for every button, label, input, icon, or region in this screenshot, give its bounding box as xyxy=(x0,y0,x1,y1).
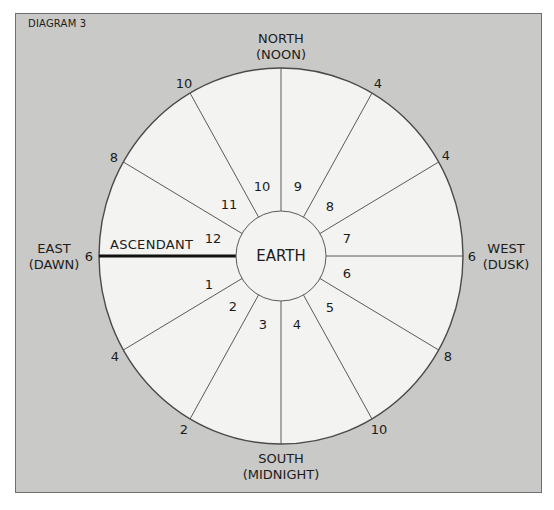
house-5: 5 xyxy=(326,300,334,315)
hour-east: 6 xyxy=(85,249,93,264)
earth-label: EARTH xyxy=(256,247,306,265)
hour-west: 6 xyxy=(468,249,476,264)
house-6: 6 xyxy=(343,266,351,281)
east-label: EAST (DAWN) xyxy=(29,241,80,273)
west-label: WEST (DUSK) xyxy=(483,241,529,273)
south-label: SOUTH (MIDNIGHT) xyxy=(243,451,320,483)
diagram-caption: DIAGRAM 3 xyxy=(28,18,86,29)
house-3: 3 xyxy=(259,317,267,332)
house-4: 4 xyxy=(293,317,301,332)
hour-upper-left-10: 10 xyxy=(176,76,193,91)
west-label-line2: (DUSK) xyxy=(483,257,529,273)
house-2: 2 xyxy=(229,299,237,314)
house-7: 7 xyxy=(343,231,351,246)
hour-lower-left-2: 2 xyxy=(180,422,188,437)
east-label-line1: EAST xyxy=(29,241,80,257)
hour-upper-left-8: 8 xyxy=(110,150,118,165)
west-label-line1: WEST xyxy=(483,241,529,257)
east-label-line2: (DAWN) xyxy=(29,257,80,273)
south-label-line1: SOUTH xyxy=(243,451,320,467)
hour-lower-left-4: 4 xyxy=(111,349,119,364)
hour-lower-right-10: 10 xyxy=(371,422,388,437)
ascendant-label: ASCENDANT xyxy=(110,237,193,252)
house-8: 8 xyxy=(326,199,334,214)
north-label-line1: NORTH xyxy=(256,31,306,47)
house-1: 1 xyxy=(205,277,213,292)
hour-upper-right-4: 4 xyxy=(442,148,450,163)
house-11: 11 xyxy=(221,197,238,212)
south-label-line2: (MIDNIGHT) xyxy=(243,467,320,483)
north-label: NORTH (NOON) xyxy=(256,31,306,63)
north-label-line2: (NOON) xyxy=(256,47,306,63)
house-10: 10 xyxy=(254,179,271,194)
hour-upper-right-2: 4 xyxy=(374,76,382,91)
house-9: 9 xyxy=(294,179,302,194)
hour-lower-right-8: 8 xyxy=(444,349,452,364)
house-12: 12 xyxy=(205,231,222,246)
